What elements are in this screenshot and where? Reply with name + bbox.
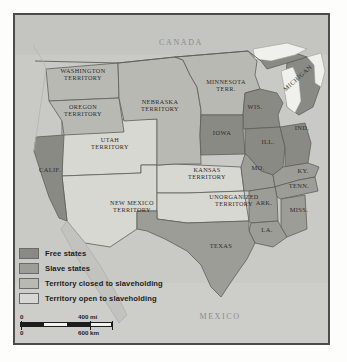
legend-label-territory-open: Territory open to slaveholding <box>45 294 157 303</box>
scale-miles-zero: 0 <box>20 313 23 320</box>
scale-km-max: 600 km <box>78 329 99 336</box>
map-frame: CANADA MEXICO WASHINGTON TERRITORY OREGO… <box>13 13 330 345</box>
legend-item-slave-states: Slave states <box>19 262 199 276</box>
legend-item-free-states: Free states <box>19 247 199 261</box>
region-iowa <box>200 115 245 155</box>
scale-km-row: 0 600 km <box>20 329 130 338</box>
legend-swatch-territory-closed <box>19 278 39 289</box>
legend-item-territory-open: Territory open to slaveholding <box>19 292 199 306</box>
map-plate: CANADA MEXICO WASHINGTON TERRITORY OREGO… <box>15 15 328 343</box>
region-kansas-territory <box>157 164 244 193</box>
region-unorganized-territory <box>157 191 249 223</box>
region-washington-territory <box>46 63 119 101</box>
legend-label-free-states: Free states <box>45 249 86 258</box>
region-indiana <box>280 123 311 167</box>
region-wisconsin <box>243 89 283 129</box>
map-scale-bar: 0 400 mi 0 600 km <box>20 313 130 338</box>
screenshot-root: CANADA MEXICO WASHINGTON TERRITORY OREGO… <box>0 0 347 362</box>
legend-swatch-territory-open <box>19 293 39 304</box>
legend-swatch-slave-states <box>19 263 39 274</box>
region-mississippi <box>281 195 307 237</box>
scale-segment-1 <box>21 323 44 326</box>
scale-segment-2 <box>67 323 90 326</box>
legend-label-slave-states: Slave states <box>45 264 90 273</box>
scale-miles-row: 0 400 mi <box>20 313 130 322</box>
scale-km-zero: 0 <box>20 329 23 336</box>
legend-label-territory-closed: Territory closed to slaveholding <box>45 279 163 288</box>
region-arkansas <box>249 187 278 223</box>
scale-miles-max: 400 mi <box>78 313 97 320</box>
legend-item-territory-closed: Territory closed to slaveholding <box>19 277 199 291</box>
legend-swatch-free-states <box>19 248 39 259</box>
scale-bar-graphic <box>20 322 112 327</box>
map-legend: Free states Slave states Territory close… <box>19 247 199 307</box>
